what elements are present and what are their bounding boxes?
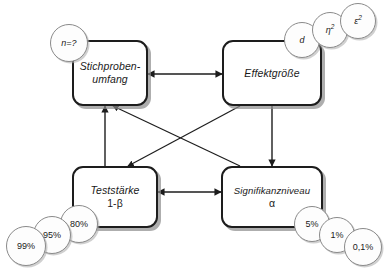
node-signifikanzniveau-line2: α [269,197,275,210]
node-stichprobenumfang-line2: umfang [92,73,128,86]
edge-effektgroesse-teststaerke [128,106,240,166]
bubble-epsilon-squared[interactable]: ε2 [340,3,376,39]
edge-signifikanzniveau-stichprobenumfang [113,106,240,166]
node-effektgroesse-line1: Effektgröße [244,67,299,80]
bubble-cohens-d-label: d [299,36,304,45]
node-stichprobenumfang-line1: Stichproben- [80,60,141,73]
bubble-epsilon-squared-label: ε2 [354,17,362,26]
bubble-alpha-1-label: 1% [330,231,343,240]
bubble-power-80-label: 80% [70,220,88,229]
bubble-power-99[interactable]: 99% [6,226,46,266]
bubble-epsilon-squared-exp: 2 [358,14,362,21]
bubble-alpha-01-label: 0,1% [353,243,374,252]
bubble-eta-squared-label: η2 [326,26,335,35]
bubble-power-99-label: 99% [17,242,35,251]
bubble-alpha-5-label: 5% [305,220,318,229]
bubble-power-95-label: 95% [43,231,61,240]
bubble-n-unknown-label: n=? [61,39,76,48]
power-analysis-diagram: Stichproben- umfang Effektgröße Teststär… [0,0,390,270]
node-teststaerke-line2: 1-β [107,197,123,210]
bubble-alpha-01[interactable]: 0,1% [344,228,382,266]
bubble-eta-squared-exp: 2 [331,23,335,30]
node-teststaerke-line1: Teststärke [90,184,139,197]
node-signifikanzniveau-line1: Signifikanzniveau [234,184,310,197]
bubble-n-unknown[interactable]: n=? [50,24,88,62]
